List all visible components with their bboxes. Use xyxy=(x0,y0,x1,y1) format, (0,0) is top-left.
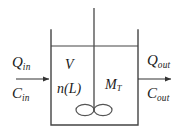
inlet-flow-label: Qin xyxy=(12,55,30,70)
volume-label: V xyxy=(65,58,74,72)
outlet-flow-label: Qout xyxy=(147,53,170,68)
mass-symbol: M xyxy=(105,77,117,92)
suspension-density-label: MT xyxy=(105,78,122,92)
inlet-flow-subscript: in xyxy=(23,62,31,72)
stirred-tank-crystallizer-diagram: Qin Cin Qout Cout V n(L) MT xyxy=(0,0,187,139)
outlet-conc-subscript: out xyxy=(157,93,169,103)
outlet-flow-symbol: Q xyxy=(147,52,158,68)
mass-subscript: T xyxy=(117,83,122,93)
inlet-conc-symbol: C xyxy=(12,85,22,101)
inlet-concentration-label: Cin xyxy=(12,86,30,101)
inlet-flow-symbol: Q xyxy=(12,54,23,70)
outlet-concentration-label: Cout xyxy=(147,86,170,101)
outlet-flow-subscript: out xyxy=(158,60,170,70)
inlet-conc-subscript: in xyxy=(22,93,30,103)
population-density-label: n(L) xyxy=(57,82,81,96)
outlet-conc-symbol: C xyxy=(147,85,157,101)
